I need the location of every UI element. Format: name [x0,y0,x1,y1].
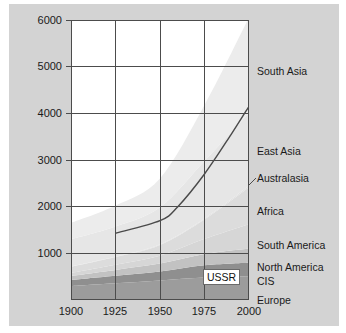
ytick-mark-6000 [66,20,71,21]
ytick-label-6000: 6000 [14,15,62,26]
xtick-label-1900: 1900 [49,306,93,317]
xtick-label-1975: 1975 [182,306,226,317]
ytick-label-2000: 2000 [14,201,62,212]
ytick-mark-5000 [66,66,71,67]
legend-label-south-america: South America [257,240,325,251]
ytick-label-5000: 5000 [14,61,62,72]
legend-label-south-asia: South Asia [257,66,307,77]
xtick-label-1925: 1925 [93,306,137,317]
ytick-label-4000: 4000 [14,108,62,119]
ytick-label-3000: 3000 [14,155,62,166]
gridline-x-1950 [160,20,161,300]
ytick-label-1000: 1000 [14,248,62,259]
chart-figure: 6000 5000 4000 3000 2000 1000 1900 1925 … [0,0,346,333]
xtick-label-2000: 2000 [227,306,271,317]
legend-label-africa: Africa [257,206,284,217]
legend-label-australasia: Australasia [257,173,309,184]
ussr-annotation: USSR [203,269,240,285]
gridline-x-1925 [115,20,116,300]
legend-label-europe: Europe [257,295,291,306]
legend-label-cis: CIS [257,276,275,287]
ytick-mark-4000 [66,113,71,114]
ytick-mark-2000 [66,206,71,207]
legend-label-east-asia: East Asia [257,146,301,157]
ytick-mark-1000 [66,253,71,254]
legend-label-north-america: North America [257,262,324,273]
gridline-x-1975 [204,20,205,300]
xtick-label-1950: 1950 [138,306,182,317]
ytick-mark-3000 [66,160,71,161]
